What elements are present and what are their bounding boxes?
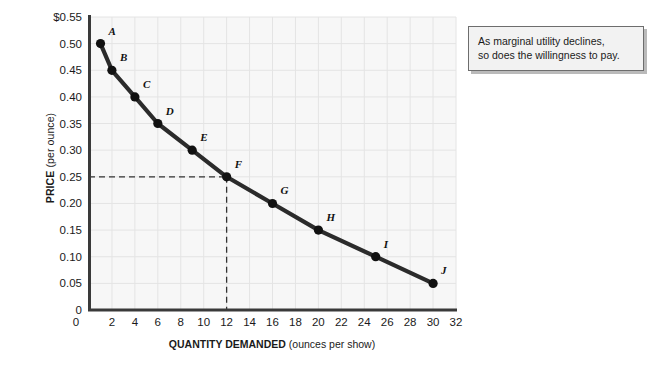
point-label-g: G	[281, 184, 289, 196]
x-tick-label: 22	[329, 316, 353, 329]
point-label-j: J	[441, 264, 447, 276]
y-axis-tick-labels: $0.550.500.450.400.350.300.250.200.150.1…	[30, 0, 82, 330]
x-tick-label: 10	[192, 316, 216, 329]
data-point-g	[268, 199, 277, 208]
demand-curve-figure: $0.550.500.450.400.350.300.250.200.150.1…	[0, 0, 668, 371]
y-tick-label: 0.45	[34, 64, 82, 76]
data-point-f	[222, 172, 231, 181]
y-tick-label: 0.15	[34, 224, 82, 236]
point-label-c: C	[143, 78, 150, 90]
x-tick-label: 16	[261, 316, 285, 329]
data-point-a	[96, 39, 105, 48]
x-axis-title-rest: (ounces per show)	[286, 338, 375, 350]
point-label-d: D	[166, 105, 174, 117]
y-tick-label: 0	[34, 304, 82, 316]
point-label-b: B	[120, 51, 127, 63]
x-tick-label: 8	[169, 316, 193, 329]
annotation-line-2: so does the willingness to pay.	[478, 48, 634, 62]
data-point-c	[130, 92, 139, 101]
y-tick-label: 0.40	[34, 91, 82, 103]
point-label-a: A	[108, 25, 115, 37]
x-tick-label: 2	[100, 316, 124, 329]
y-tick-label: $0.55	[34, 11, 82, 23]
x-tick-label: 30	[421, 316, 445, 329]
point-label-h: H	[326, 211, 335, 223]
y-axis-title-bold: PRICE	[44, 171, 56, 204]
x-tick-label: 4	[123, 316, 147, 329]
x-tick-label: 32	[444, 316, 468, 329]
x-tick-label: 20	[306, 316, 330, 329]
y-tick-label: 0.50	[34, 38, 82, 50]
data-point-b	[107, 66, 116, 75]
y-tick-label: 0.30	[34, 144, 82, 156]
point-label-e: E	[200, 131, 207, 143]
x-tick-label: 18	[283, 316, 307, 329]
point-label-f: F	[235, 158, 242, 170]
y-tick-label: 0.35	[34, 118, 82, 130]
y-tick-label: 0.25	[34, 171, 82, 183]
x-tick-label: 14	[238, 316, 262, 329]
point-label-i: I	[384, 238, 388, 250]
data-point-h	[314, 226, 323, 235]
x-tick-label: 28	[398, 316, 422, 329]
data-point-d	[153, 119, 162, 128]
y-axis-title-rest: (per ounce)	[44, 113, 56, 171]
x-tick-label: 6	[146, 316, 170, 329]
annotation-line-1: As marginal utility declines,	[478, 34, 634, 48]
annotation-callout: As marginal utility declines, so does th…	[468, 26, 644, 71]
x-tick-label: 0	[64, 316, 88, 329]
y-tick-label: 0.20	[34, 197, 82, 209]
x-tick-label: 12	[215, 316, 239, 329]
x-axis-title-bold: QUANTITY DEMANDED	[169, 338, 286, 350]
x-axis-title: QUANTITY DEMANDED (ounces per show)	[88, 338, 456, 350]
data-point-i	[371, 252, 380, 261]
y-tick-label: 0.05	[34, 277, 82, 289]
x-tick-label: 26	[375, 316, 399, 329]
x-tick-label: 24	[352, 316, 376, 329]
data-point-j	[429, 279, 438, 288]
y-axis-title: PRICE (per ounce)	[44, 78, 56, 238]
data-point-e	[188, 146, 197, 155]
y-tick-label: 0.10	[34, 251, 82, 263]
